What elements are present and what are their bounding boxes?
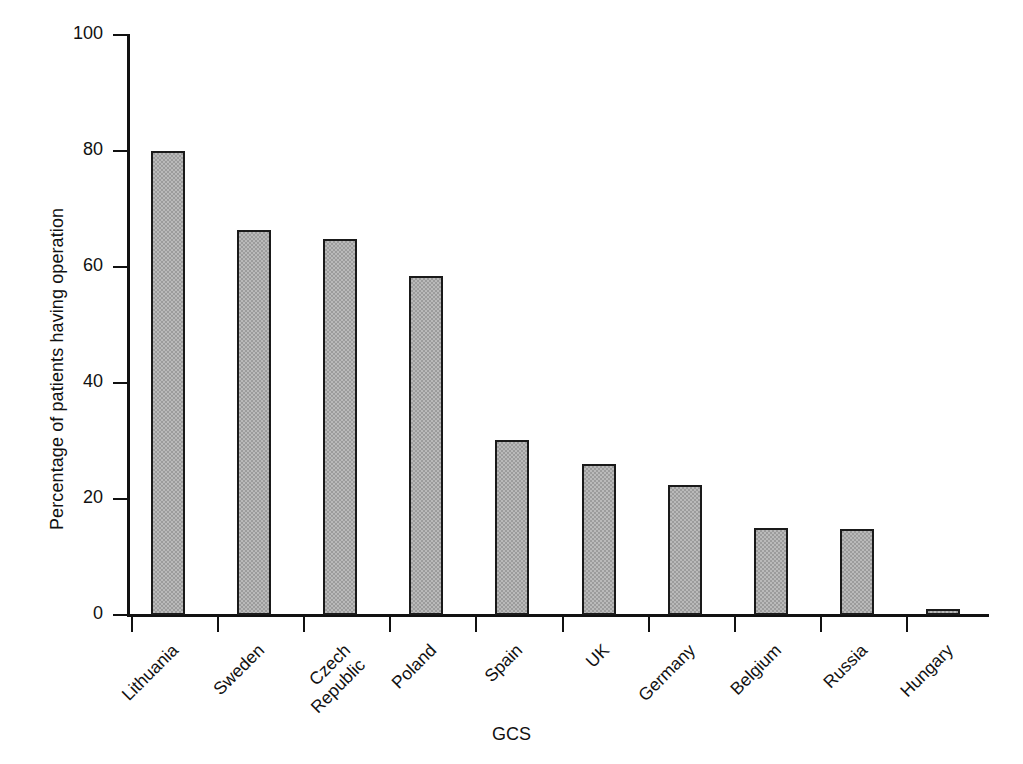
y-axis-title: Percentage of patients having operation xyxy=(42,30,72,530)
y-tick-label: 80 xyxy=(0,139,103,160)
bar xyxy=(323,239,357,615)
x-tick-mark xyxy=(303,617,305,632)
y-tick-label: 20 xyxy=(0,487,103,508)
bar xyxy=(237,230,271,615)
y-tick-mark xyxy=(113,150,128,152)
x-tick-mark xyxy=(217,617,219,632)
bar xyxy=(840,529,874,615)
bar xyxy=(409,276,443,615)
y-tick-mark xyxy=(113,614,128,616)
bar xyxy=(151,151,185,615)
x-tick-mark xyxy=(475,617,477,632)
x-axis-title: GCS xyxy=(0,724,1023,745)
bar xyxy=(926,609,960,615)
x-tick-mark xyxy=(648,617,650,632)
y-tick-mark xyxy=(113,498,128,500)
y-tick-mark xyxy=(113,34,128,36)
x-tick-mark xyxy=(734,617,736,632)
bar-chart-figure: Percentage of patients having operation … xyxy=(0,0,1023,764)
y-tick-label: 60 xyxy=(0,255,103,276)
x-tick-mark xyxy=(562,617,564,632)
x-tick-mark xyxy=(131,617,133,632)
y-tick-label: 0 xyxy=(0,603,103,624)
x-tick-mark xyxy=(389,617,391,632)
bar xyxy=(495,440,529,615)
y-tick-mark xyxy=(113,382,128,384)
y-tick-mark xyxy=(113,266,128,268)
y-axis-line xyxy=(127,34,130,617)
y-tick-label: 40 xyxy=(0,371,103,392)
bar xyxy=(754,528,788,615)
x-tick-mark xyxy=(820,617,822,632)
bar xyxy=(668,485,702,615)
x-tick-mark xyxy=(906,617,908,632)
bar xyxy=(582,464,616,615)
y-tick-label: 100 xyxy=(0,23,103,44)
